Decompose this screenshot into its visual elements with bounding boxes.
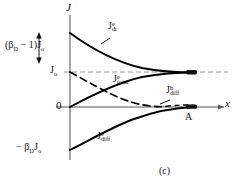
curve-label-diffusion-hole: Jhdiff bbox=[166, 85, 179, 95]
current-density-plot bbox=[0, 0, 239, 188]
figure-caption: (c) bbox=[159, 166, 170, 176]
y-span-label: (βD − 1)Jo bbox=[5, 40, 44, 53]
jdr-sub: dr bbox=[112, 26, 117, 33]
plot-background bbox=[0, 0, 239, 188]
jtotal-scripts: etotal bbox=[117, 78, 128, 85]
jdr-scripts: edr bbox=[112, 25, 117, 32]
y-bottom-label: − βDJo bbox=[16, 142, 41, 155]
jdiffh-sub: diff bbox=[170, 90, 179, 97]
origin-label: 0 bbox=[56, 100, 62, 111]
point-label-a: A bbox=[185, 112, 192, 122]
jdiffe-scripts: ediff bbox=[101, 135, 110, 142]
curve-label-total-electron: Jetotal bbox=[113, 74, 128, 84]
convergence-marker-a bbox=[186, 105, 197, 109]
jtotal-sub: total bbox=[117, 79, 128, 86]
y-axis-label: J bbox=[66, 2, 71, 13]
y-span-mid: − 1)J bbox=[18, 39, 41, 50]
y-tick-label-jo: Jo bbox=[50, 65, 57, 78]
convergence-marker-jo bbox=[186, 70, 197, 74]
jdiffe-sub: diff bbox=[101, 136, 110, 143]
y-span-suffix: o bbox=[41, 45, 44, 52]
bottom-prefix: − β bbox=[16, 141, 29, 152]
jo-sub: o bbox=[54, 70, 57, 77]
figure-container: J x (βD − 1)Jo Jo 0 − βDJo Jedr Jetotal … bbox=[0, 0, 239, 188]
x-axis-label: x bbox=[225, 98, 230, 109]
bottom-suffix: o bbox=[38, 147, 41, 154]
curve-label-diffusion-electron: Jediff bbox=[97, 131, 110, 141]
jdiffh-scripts: hdiff bbox=[170, 89, 179, 96]
curve-label-drift-electron: Jedr bbox=[108, 21, 117, 31]
